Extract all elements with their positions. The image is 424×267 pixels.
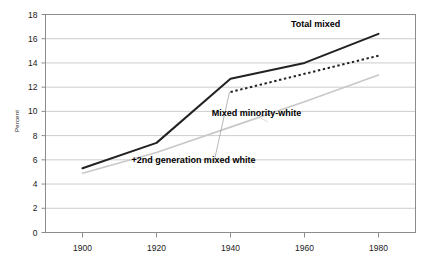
plot-frame bbox=[46, 15, 416, 233]
annotation-second-generation-mixed-white: +2nd generation mixed white bbox=[132, 155, 256, 165]
annotation-mixed-minority-white: Mixed minority-white bbox=[212, 108, 302, 118]
x-axis-tick-label: 1980 bbox=[369, 243, 388, 253]
y-axis-tick-label: 12 bbox=[28, 82, 38, 92]
annotation-leader-line bbox=[214, 92, 230, 162]
x-axis-tick-label: 1920 bbox=[147, 243, 166, 253]
y-axis-tick-label: 4 bbox=[33, 179, 38, 189]
y-axis-tick-label: 10 bbox=[28, 106, 38, 116]
chart-canvas: 02468101214161819001920194019601980Total… bbox=[0, 0, 424, 267]
y-axis-tick-label: 8 bbox=[33, 131, 38, 141]
series-line-total-mixed bbox=[83, 34, 379, 168]
x-axis-tick-label: 1900 bbox=[73, 243, 92, 253]
y-axis-tick-label: 2 bbox=[33, 203, 38, 213]
y-axis-title: Percent bbox=[14, 91, 20, 151]
y-axis-tick-label: 18 bbox=[28, 10, 38, 20]
y-axis-tick-label: 6 bbox=[33, 155, 38, 165]
y-axis-tick-label: 14 bbox=[28, 58, 38, 68]
y-axis-tick-label: 0 bbox=[33, 228, 38, 238]
y-axis-tick-label: 16 bbox=[28, 34, 38, 44]
x-axis-tick-label: 1960 bbox=[295, 243, 314, 253]
line-chart: Percent 02468101214161819001920194019601… bbox=[0, 0, 424, 267]
annotation-total-mixed: Total mixed bbox=[291, 19, 340, 29]
x-axis-tick-label: 1940 bbox=[221, 243, 240, 253]
